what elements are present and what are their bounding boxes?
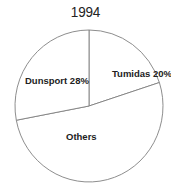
slice-label-dunsport: Dunsport 28% bbox=[25, 75, 89, 86]
pie-chart: Tumidas 20% Others Dunsport 28% bbox=[0, 0, 171, 190]
slice-label-others: Others bbox=[66, 131, 97, 142]
slice-label-tumidas: Tumidas 20% bbox=[112, 68, 171, 79]
pie-slices bbox=[15, 30, 163, 182]
